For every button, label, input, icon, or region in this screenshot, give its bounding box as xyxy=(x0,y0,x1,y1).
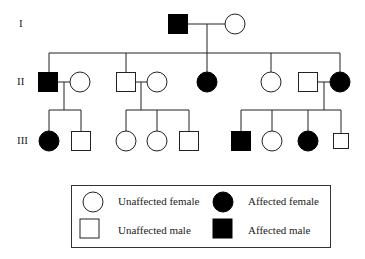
affected-female-icon xyxy=(39,131,59,151)
generation-label-I: I xyxy=(19,17,23,29)
legend-affected-female-icon xyxy=(213,192,233,212)
unaffected-female-icon xyxy=(70,72,90,92)
unaffected-female-icon xyxy=(225,14,245,34)
legend-unaffected-male-icon xyxy=(80,219,99,238)
generation-label-II: II xyxy=(17,75,24,87)
unaffected-female-icon xyxy=(116,131,136,151)
affected-female-icon xyxy=(330,72,350,92)
generation-label-III: III xyxy=(17,134,28,146)
affected-female-icon xyxy=(298,131,318,151)
unaffected-male-icon xyxy=(180,132,199,151)
legend-unaffected-female-icon xyxy=(83,192,103,212)
unaffected-female-icon xyxy=(147,131,167,151)
affected-male-icon xyxy=(39,73,58,92)
unaffected-male-icon xyxy=(72,132,91,151)
unaffected-male-icon xyxy=(334,134,349,149)
legend-box: Unaffected female Affected female Unaffe… xyxy=(71,185,331,248)
legend-label-unaffected-female: Unaffected female xyxy=(118,195,199,207)
unaffected-female-icon xyxy=(261,72,281,92)
unaffected-male-icon xyxy=(299,73,318,92)
legend-label-unaffected-male: Unaffected male xyxy=(118,224,191,236)
affected-male-icon xyxy=(232,132,251,151)
unaffected-female-icon xyxy=(262,131,282,151)
legend-label-affected-male: Affected male xyxy=(248,224,310,236)
unaffected-male-icon xyxy=(117,73,136,92)
legend-affected-male-icon xyxy=(213,219,232,238)
affected-male-icon xyxy=(169,15,188,34)
legend-label-affected-female: Affected female xyxy=(248,195,319,207)
affected-female-icon xyxy=(197,72,217,92)
unaffected-female-icon xyxy=(147,72,167,92)
